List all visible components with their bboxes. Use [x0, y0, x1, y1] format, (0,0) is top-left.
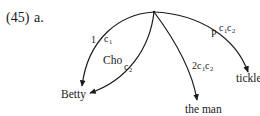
- node-the-man: the man: [185, 103, 222, 115]
- relational-network-diagram: (45) a. 1 c 1 Cho c 2 2 c 1 c 2 P c 1 c …: [0, 0, 260, 116]
- arc-2-to-the-man: [154, 12, 197, 100]
- svg-text:2: 2: [210, 65, 213, 72]
- example-letter: a.: [34, 10, 44, 25]
- svg-text:1: 1: [109, 38, 112, 45]
- arc-p-relation-label: P: [211, 28, 217, 39]
- arc-p-sequence-label: c 1 c 2: [219, 22, 235, 34]
- example-number: (45): [6, 10, 30, 26]
- arc-2-sequence-label: c 1 c 2: [197, 60, 213, 72]
- arc-cho-relation-label: Cho: [103, 54, 122, 66]
- arc-1-relation-label: 1: [91, 34, 96, 45]
- svg-text:2: 2: [129, 66, 132, 73]
- node-betty: Betty: [61, 88, 86, 101]
- arc-cho-to-betty: [90, 12, 154, 93]
- svg-text:2: 2: [232, 27, 235, 34]
- arc-1-sequence-label: c 1: [104, 33, 112, 45]
- node-tickle: tickle: [236, 72, 260, 84]
- arc-cho-sequence-label: c 2: [124, 61, 132, 73]
